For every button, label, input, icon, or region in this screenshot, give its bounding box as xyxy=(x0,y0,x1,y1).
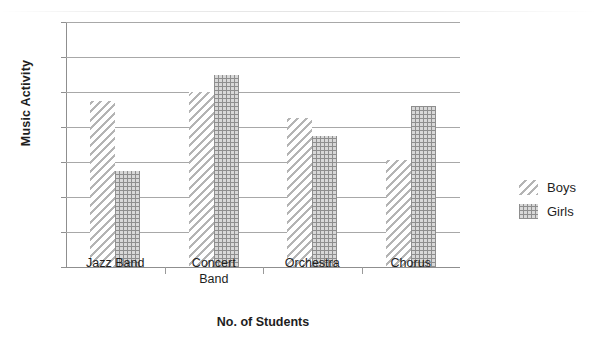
legend-swatch-girls xyxy=(519,204,538,219)
chart-legend: BoysGirls xyxy=(519,175,576,223)
y-tick-mark xyxy=(61,232,66,233)
y-tick-mark xyxy=(61,162,66,163)
legend-label-girls: Girls xyxy=(547,204,574,219)
y-tick-mark xyxy=(61,57,66,58)
bar-group xyxy=(287,22,337,267)
plot-area xyxy=(66,22,460,267)
bar-boys-orchestra[interactable] xyxy=(287,118,312,267)
bar-group xyxy=(90,22,140,267)
legend-label-boys: Boys xyxy=(547,180,576,195)
x-category-label-line: Chorus xyxy=(351,256,471,272)
scan-edge-artifact xyxy=(0,11,598,12)
bar-girls-jazz-band[interactable] xyxy=(115,171,140,267)
bar-girls-concert-band[interactable] xyxy=(214,75,239,268)
bar-chart-figure: Music Activity 0481216202428 Jazz BandCo… xyxy=(0,0,598,339)
y-tick-mark xyxy=(61,197,66,198)
bar-group xyxy=(386,22,436,267)
x-axis-title: No. of Students xyxy=(66,315,460,329)
y-tick-mark xyxy=(61,92,66,93)
bar-girls-chorus[interactable] xyxy=(411,106,436,267)
legend-swatch-boys xyxy=(519,180,538,195)
y-axis-title: Music Activity xyxy=(19,33,33,173)
x-category-label-line: Band xyxy=(154,272,274,288)
bar-group xyxy=(189,22,239,267)
legend-item-boys[interactable]: Boys xyxy=(519,175,576,199)
bar-boys-chorus[interactable] xyxy=(386,160,411,267)
x-category-label-chorus: Chorus xyxy=(351,256,471,272)
legend-item-girls[interactable]: Girls xyxy=(519,199,576,223)
bar-girls-orchestra[interactable] xyxy=(312,136,337,267)
y-tick-mark xyxy=(61,127,66,128)
bar-boys-concert-band[interactable] xyxy=(189,92,214,267)
bar-boys-jazz-band[interactable] xyxy=(90,101,115,267)
y-tick-mark xyxy=(61,22,66,23)
